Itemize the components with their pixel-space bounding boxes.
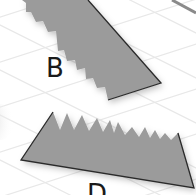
- partial-shape-edge: [172, 0, 196, 13]
- figure-canvas: [0, 0, 196, 195]
- shape-label-d: D: [87, 181, 107, 195]
- puzzle-figure: B D: [0, 0, 196, 195]
- shape-label-b: B: [46, 55, 64, 81]
- shadow-blob: [0, 104, 14, 140]
